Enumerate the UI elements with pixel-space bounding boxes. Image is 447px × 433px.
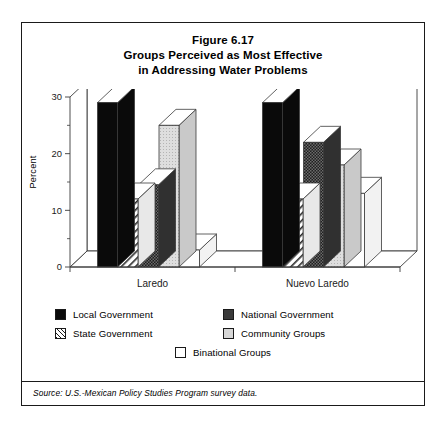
legend-item-state-government[interactable]: State Government xyxy=(55,328,223,339)
bar-chart-svg: 0102030LaredoNuevo Laredo xyxy=(22,89,424,311)
bar-local-government xyxy=(98,89,135,267)
legend-swatch-black-icon xyxy=(55,309,66,320)
title-line-1: Figure 6.17 xyxy=(22,33,424,48)
legend-row-1: Local Government National Government xyxy=(22,309,424,320)
legend-swatch-light-gray-icon xyxy=(223,328,234,339)
source-band: Source: U.S.-Mexican Policy Studies Prog… xyxy=(21,381,425,406)
figure-title: Figure 6.17 Groups Perceived as Most Eff… xyxy=(22,33,424,78)
title-line-3: in Addressing Water Problems xyxy=(22,63,424,78)
legend-item-binational-groups[interactable]: Binational Groups xyxy=(175,347,271,358)
legend-label: Community Groups xyxy=(241,328,325,339)
figure-root: Figure 6.17 Groups Perceived as Most Eff… xyxy=(0,0,447,433)
legend-label: Local Government xyxy=(73,309,153,320)
bar-local-government xyxy=(263,89,300,267)
legend-swatch-white-icon xyxy=(175,347,186,358)
svg-text:30: 30 xyxy=(52,91,62,102)
legend-item-local-government[interactable]: Local Government xyxy=(55,309,223,320)
x-axis-tick-label: Laredo xyxy=(137,278,169,289)
legend-swatch-hatch-icon xyxy=(55,328,66,339)
legend-label: National Government xyxy=(241,309,334,320)
legend-swatch-dark-checker-icon xyxy=(223,309,234,320)
legend-item-community-groups[interactable]: Community Groups xyxy=(223,328,391,339)
chart-legend: Local Government National Government Sta… xyxy=(22,309,424,381)
legend-row-2: State Government Community Groups xyxy=(22,328,424,339)
y-axis-label: Percent xyxy=(28,155,38,188)
legend-row-3: Binational Groups xyxy=(22,347,424,358)
source-note: Source: U.S.-Mexican Policy Studies Prog… xyxy=(33,388,257,398)
legend-label: Binational Groups xyxy=(193,347,271,358)
title-line-2: Groups Perceived as Most Effective xyxy=(22,48,424,63)
legend-label: State Government xyxy=(73,328,152,339)
x-axis-tick-label: Nuevo Laredo xyxy=(286,278,349,289)
chart-plot-area: Percent 0102030LaredoNuevo Laredo xyxy=(22,89,424,311)
svg-text:20: 20 xyxy=(52,148,62,159)
figure-outer-frame: Figure 6.17 Groups Perceived as Most Eff… xyxy=(21,22,425,406)
legend-item-national-government[interactable]: National Government xyxy=(223,309,391,320)
svg-text:10: 10 xyxy=(52,205,62,216)
svg-text:0: 0 xyxy=(57,261,62,272)
